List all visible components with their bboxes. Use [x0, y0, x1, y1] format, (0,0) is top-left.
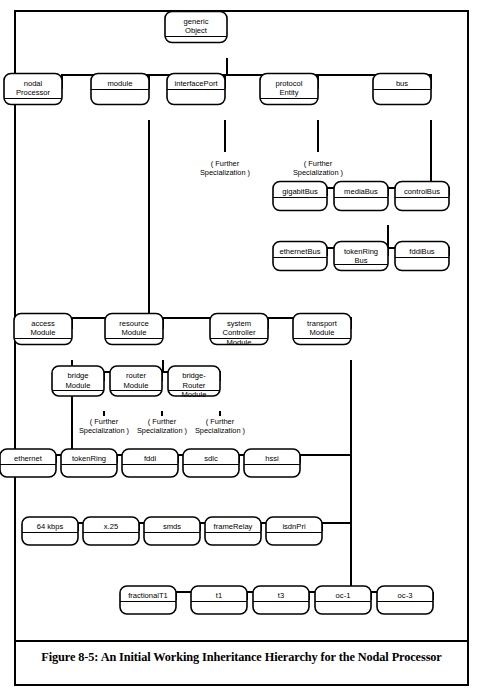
class-box-hssi[interactable]: hssi [244, 449, 300, 477]
class-box-module[interactable]: module [91, 74, 149, 105]
class-box-outline [334, 182, 388, 211]
class-name-label: mediaBus [344, 187, 378, 196]
class-name-label: ethernet [14, 454, 43, 463]
class-box-routerModule[interactable]: routerModule [110, 366, 162, 396]
class-box-t1[interactable]: t1 [191, 586, 247, 614]
class-box-ethernet[interactable]: ethernet [0, 449, 56, 477]
class-box-bridgeModule[interactable]: bridgeModule [52, 366, 104, 396]
class-box-frameRelay[interactable]: frameRelay [205, 517, 261, 545]
class-name-label: smds [163, 522, 181, 531]
class-box-sdlc[interactable]: sdlc [183, 449, 239, 477]
class-box-64kbps[interactable]: 64 kbps [22, 517, 78, 545]
class-box-fractionalT1[interactable]: fractionalT1 [120, 586, 176, 614]
class-box-gigabitBus[interactable]: gigabitBus [273, 182, 327, 211]
class-box-outline [273, 182, 327, 211]
class-name-label: oc-3 [398, 591, 413, 600]
class-name-label: sdlc [204, 454, 218, 463]
class-name-label: routerModule [124, 371, 149, 389]
class-name-label: t1 [216, 591, 222, 600]
class-box-outline [273, 242, 327, 271]
class-box-resourceModule[interactable]: resourceModule [105, 314, 163, 345]
class-box-fddiBus[interactable]: fddiBus [395, 242, 449, 271]
annot-bridgeModule: ( FurtherSpecialization ) [79, 417, 129, 435]
edge-module-down [72, 120, 149, 329]
class-box-systemControllerModule[interactable]: systemControllerModule [210, 314, 268, 347]
class-box-oc1[interactable]: oc-1 [315, 586, 371, 614]
class-name-label: fddi [144, 454, 157, 463]
class-name-label: tokenRing [72, 454, 106, 463]
class-name-label: ethernetBus [280, 247, 321, 256]
annot-protocolEntity: ( FurtherSpecialization ) [293, 159, 343, 177]
class-box-outline [395, 182, 449, 211]
annot-routerModule: ( FurtherSpecialization ) [137, 417, 187, 435]
class-name-label: accessModule [31, 319, 56, 337]
class-box-x25[interactable]: x.25 [83, 517, 139, 545]
class-box-mediaBus[interactable]: mediaBus [334, 182, 388, 211]
class-name-label: bridge-RouterModule [182, 371, 207, 399]
inheritance-hierarchy-diagram: ( FurtherSpecialization )( FurtherSpecia… [0, 0, 485, 696]
class-box-bus[interactable]: bus [373, 74, 431, 105]
class-box-fddi[interactable]: fddi [122, 449, 178, 477]
class-name-label: systemControllerModule [223, 319, 256, 347]
figure-page: ( FurtherSpecialization )( FurtherSpecia… [0, 0, 485, 696]
class-name-label: isdnPri [282, 522, 306, 531]
class-name-label: controlBus [404, 187, 440, 196]
class-name-label: bridgeModule [66, 371, 91, 389]
class-box-controlBus[interactable]: controlBus [395, 182, 449, 211]
class-name-label: t3 [278, 591, 284, 600]
class-name-label: genericObject [184, 17, 209, 35]
class-name-label: oc-1 [336, 591, 351, 600]
class-box-nodalProcessor[interactable]: nodalProcessor [4, 74, 62, 105]
class-nodes: genericObjectnodalProcessormoduleinterfa… [0, 12, 449, 615]
class-box-bridgeRouterModule[interactable]: bridge-RouterModule [168, 366, 220, 399]
class-box-tokenRing[interactable]: tokenRing [61, 449, 117, 477]
class-name-label: gigabitBus [282, 187, 318, 196]
class-box-protocolEntity[interactable]: protocolEntity [260, 74, 318, 105]
annot-interfacePort: ( FurtherSpecialization ) [200, 159, 250, 177]
class-name-label: frameRelay [214, 522, 253, 531]
class-box-smds[interactable]: smds [144, 517, 200, 545]
class-box-tokenRingBus[interactable]: tokenRingBus [334, 242, 388, 271]
class-name-label: fractionalT1 [128, 591, 168, 600]
class-name-label: fddiBus [409, 247, 435, 256]
class-box-transportModule[interactable]: transportModule [293, 314, 351, 345]
class-box-t3[interactable]: t3 [253, 586, 309, 614]
class-name-label: module [108, 79, 133, 88]
class-box-accessModule[interactable]: accessModule [14, 314, 72, 345]
caption-divider [16, 640, 467, 642]
class-name-label: x.25 [104, 522, 118, 531]
class-name-label: 64 kbps [37, 522, 64, 531]
class-name-label: interfacePort [174, 79, 218, 88]
class-box-interfacePort[interactable]: interfacePort [167, 74, 225, 105]
class-name-label: bus [396, 79, 408, 88]
class-box-isdnPri[interactable]: isdnPri [266, 517, 322, 545]
class-box-ethernetBus[interactable]: ethernetBus [273, 242, 327, 271]
annot-bridgeRouterModule: ( FurtherSpecialization ) [195, 417, 245, 435]
figure-caption: Figure 8-5: An Initial Working Inheritan… [16, 650, 467, 665]
class-name-label: hssi [265, 454, 279, 463]
class-name-label: resourceModule [119, 319, 149, 337]
class-box-oc3[interactable]: oc-3 [377, 586, 433, 614]
class-box-genericObject[interactable]: genericObject [165, 12, 227, 43]
class-name-label: transportModule [307, 319, 338, 337]
class-box-outline [395, 242, 449, 271]
